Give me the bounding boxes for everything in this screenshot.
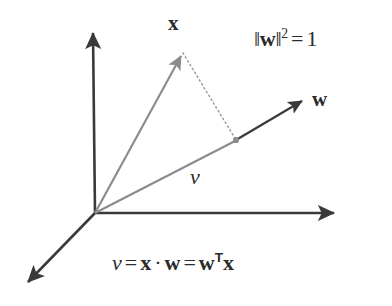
x-vector xyxy=(95,56,181,213)
vector-projection-diagram: x w v ‖w‖2=1 v=x·w=wTx xyxy=(0,0,392,306)
v-projection-vector xyxy=(95,140,237,213)
norm-value: 1 xyxy=(307,26,318,51)
equation-dot-operator: · xyxy=(151,250,164,275)
equation-term-w: w xyxy=(165,250,181,275)
axes-group xyxy=(28,33,334,282)
equation-transpose-superscript: T xyxy=(215,250,223,265)
equation-term-w-transposed: w xyxy=(199,250,215,275)
equation-equals-second: = xyxy=(180,250,198,275)
equation-equals-first: = xyxy=(122,250,140,275)
norm-constraint-annotation: ‖w‖2=1 xyxy=(254,28,318,50)
x-vector-label: x xyxy=(168,13,179,34)
norm-equals-sign: = xyxy=(288,26,306,51)
vectors-group xyxy=(95,53,302,213)
w-vector xyxy=(236,101,302,140)
dot-product-equation: v=x·w=wTx xyxy=(112,252,234,274)
v-scalar-label: v xyxy=(190,166,200,188)
w-vector-label: w xyxy=(312,89,327,110)
equation-term-x-second: x xyxy=(223,250,234,275)
z-axis-diagonal xyxy=(28,213,95,282)
y-axis-vertical xyxy=(93,33,95,213)
projection-point-marker xyxy=(233,137,239,143)
perpendicular-dotted-line xyxy=(183,53,236,140)
equation-lhs-v: v xyxy=(112,250,122,275)
equation-term-x: x xyxy=(140,250,151,275)
norm-w-symbol: w xyxy=(260,26,276,51)
